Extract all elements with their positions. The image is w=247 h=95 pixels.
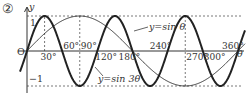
x-tick-label: 240° — [150, 41, 172, 51]
x-tick-label: 360° — [222, 41, 244, 51]
curve-label-sin3theta: y=sin 3θ — [97, 73, 140, 84]
labels: ②yθO1−130°60°90°120°180°240°270°300°360°… — [2, 1, 244, 84]
x-tick-label: 300° — [204, 52, 226, 62]
x-tick-label: 60° — [63, 41, 79, 51]
y-tick-label: 1 — [30, 17, 36, 28]
chart: ②yθO1−130°60°90°120°180°240°270°300°360°… — [0, 0, 247, 95]
y-tick-label: −1 — [29, 73, 43, 84]
x-tick-label: 30° — [41, 52, 57, 62]
x-tick-label: 90° — [81, 41, 97, 51]
y-axis-label: y — [28, 1, 35, 12]
x-tick-label: 120° — [95, 52, 117, 62]
origin-label: O — [17, 46, 25, 57]
leader-line-sintheta — [134, 27, 148, 31]
curve-label-sintheta: y=sin θ — [148, 21, 185, 32]
x-tick-label: 180° — [119, 52, 141, 62]
problem-number: ② — [2, 1, 14, 16]
